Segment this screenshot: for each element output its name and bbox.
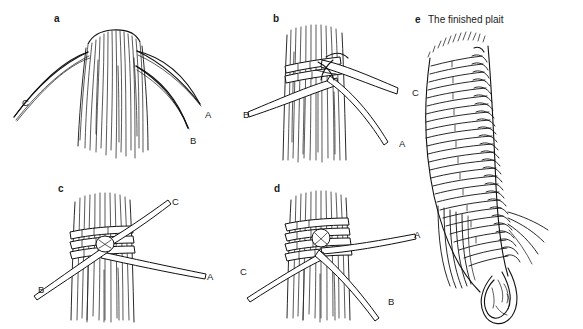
plait-braid-spine-e bbox=[472, 47, 520, 262]
panel-a: a bbox=[0, 0, 230, 170]
panel-d-illustration bbox=[235, 170, 430, 329]
panel-b-letter: b bbox=[273, 14, 279, 24]
strand-b-a bbox=[136, 66, 189, 129]
panel-c-illustration bbox=[20, 170, 230, 329]
panel-c-letter: c bbox=[58, 184, 64, 194]
panel-d-label-b: B bbox=[388, 297, 394, 307]
panel-b-label-a: A bbox=[399, 139, 405, 149]
knot-core-c bbox=[96, 236, 114, 252]
panel-c-label-a: A bbox=[207, 272, 213, 282]
figure-canvas: a bbox=[0, 0, 583, 329]
panel-d-letter: d bbox=[274, 184, 280, 194]
panel-b-label-b: B bbox=[243, 110, 249, 120]
panel-d-label-c: C bbox=[240, 267, 247, 277]
panel-e-letter: e bbox=[415, 15, 421, 25]
panel-a-label-c: C bbox=[22, 98, 29, 108]
panel-e-title: The finished plait bbox=[428, 15, 504, 25]
panel-c-label-c: C bbox=[172, 197, 179, 207]
panel-b: b bbox=[230, 0, 430, 170]
panel-a-letter: a bbox=[54, 14, 60, 24]
plait-end-loop-e bbox=[481, 268, 517, 324]
panel-a-label-a: A bbox=[205, 110, 211, 120]
straw-bundle-a bbox=[78, 30, 148, 158]
strand-b-d bbox=[315, 250, 379, 321]
panel-e-illustration bbox=[408, 0, 583, 329]
panel-a-label-b: B bbox=[190, 136, 196, 146]
panel-c: c bbox=[20, 170, 230, 329]
panel-d: d bbox=[235, 170, 430, 329]
knot-core-d bbox=[312, 229, 330, 247]
panel-c-label-b: B bbox=[38, 285, 44, 295]
panel-e: e The finished plait bbox=[408, 0, 583, 329]
strand-c-a bbox=[14, 52, 90, 121]
plait-top-ends-e bbox=[428, 32, 485, 57]
